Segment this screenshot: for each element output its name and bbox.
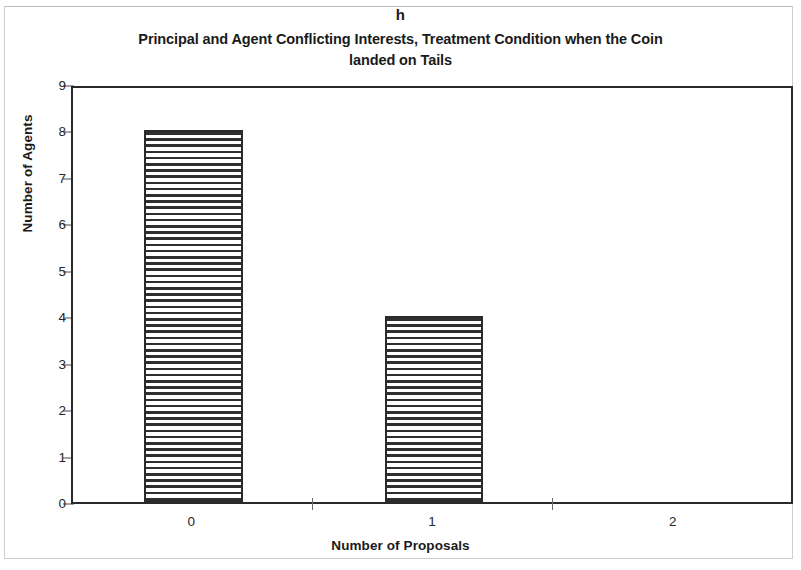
y-tick-label: 3 (44, 358, 66, 372)
x-tick-label: 2 (643, 515, 703, 529)
x-axis-title: Number of Proposals (0, 538, 801, 553)
y-tick-label: 5 (44, 265, 66, 279)
y-tick-label: 2 (44, 404, 66, 418)
chart-page: h Principal and Agent Conflicting Intere… (0, 0, 801, 570)
x-tick-label: 1 (402, 515, 462, 529)
x-tick-mark (552, 498, 553, 510)
bar-1 (385, 316, 484, 502)
x-tick-label: 0 (161, 515, 221, 529)
y-tick-label: 0 (44, 497, 66, 511)
plot-inner (73, 88, 791, 502)
y-tick-label: 7 (44, 172, 66, 186)
y-tick-label: 8 (44, 126, 66, 140)
bar-0 (144, 130, 243, 502)
plot-area (71, 86, 793, 504)
y-tick-label: 1 (44, 451, 66, 465)
y-axis-ticks: 0123456789 (0, 86, 66, 504)
chart-title-line-1: Principal and Agent Conflicting Interest… (100, 29, 701, 50)
y-tick-label: 9 (44, 79, 66, 93)
x-tick-mark (312, 498, 313, 510)
chart-title-line-2: landed on Tails (100, 50, 701, 71)
y-tick-label: 4 (44, 311, 66, 325)
y-tick-label: 6 (44, 219, 66, 233)
panel-letter: h (0, 6, 801, 23)
chart-title: Principal and Agent Conflicting Interest… (100, 29, 701, 71)
